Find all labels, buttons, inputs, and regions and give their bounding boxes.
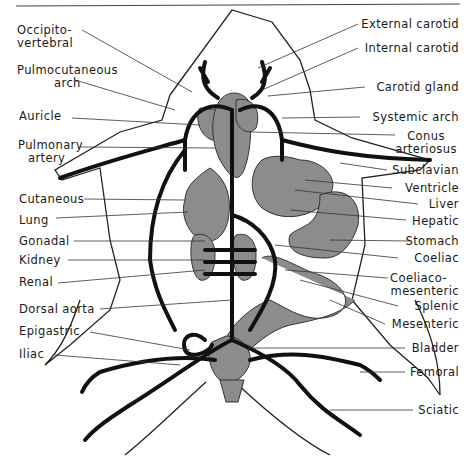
carotid-right	[252, 62, 270, 98]
label-auricle: Auricle	[19, 110, 61, 123]
label-ventricle: Ventricle	[405, 182, 459, 195]
label-conus-arteriosus: Conus arteriosus	[393, 130, 459, 156]
label-iliac: Iliac	[19, 348, 44, 361]
label-lung: Lung	[19, 214, 49, 227]
label-coeliac: Coeliac	[414, 252, 459, 265]
label-femoral: Femoral	[410, 366, 459, 379]
label-splenic: Splenic	[415, 300, 459, 313]
label-gonadal: Gonadal	[19, 235, 70, 248]
epigastric-vessel	[184, 335, 212, 355]
label-coeliaco-mesenteric: Coeliaco- mesenteric	[390, 272, 459, 298]
label-cutaneous: Cutaneous	[19, 193, 84, 206]
carotid-left	[200, 62, 218, 98]
label-renal: Renal	[19, 276, 53, 289]
label-pulmonary-artery: Pulmonary artery	[18, 139, 83, 165]
label-dorsal-aorta: Dorsal aorta	[19, 303, 95, 316]
label-external-carotid: External carotid	[361, 18, 459, 31]
label-epigastric: Epigastric	[19, 325, 80, 338]
label-systemic-arch: Systemic arch	[373, 111, 459, 124]
cutaneous-vessel	[150, 150, 185, 330]
lung-left-organ	[183, 168, 229, 241]
label-liver: Liver	[429, 198, 459, 211]
label-internal-carotid: Internal carotid	[365, 42, 459, 55]
label-subclavian: Subclavian	[392, 164, 459, 177]
label-mesenteric: Mesenteric	[392, 318, 459, 331]
label-kidney: Kidney	[19, 254, 61, 267]
frog-arterial-diagram: Occipito- vertebral Pulmocutaneous arch …	[0, 0, 473, 469]
top-rule	[16, 4, 460, 6]
label-carotid-gland: Carotid gland	[376, 81, 459, 94]
label-sciatic: Sciatic	[418, 404, 459, 417]
cloaca-organ	[220, 380, 244, 402]
label-bladder: Bladder	[412, 342, 459, 355]
label-stomach: Stomach	[405, 235, 459, 248]
label-pulmocutaneous-arch: Pulmocutaneous arch	[17, 64, 118, 90]
label-occipito-vertebral: Occipito- vertebral	[17, 24, 73, 50]
label-hepatic: Hepatic	[412, 215, 459, 228]
